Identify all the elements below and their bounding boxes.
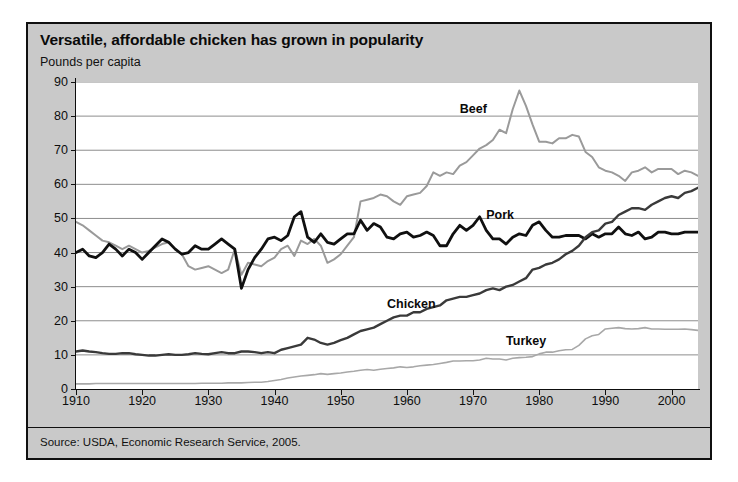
- x-axis-tick-label: 1970: [459, 394, 487, 408]
- series-label-pork: Pork: [486, 208, 514, 222]
- x-axis-tick-label: 2000: [658, 394, 686, 408]
- y-axis-tick: [71, 321, 76, 322]
- y-axis-tick: [71, 253, 76, 254]
- y-axis-tick-label: 10: [54, 348, 68, 362]
- x-axis-tick: [76, 389, 77, 395]
- series-line-turkey: [76, 328, 698, 384]
- y-axis-tick-label: 90: [54, 75, 68, 89]
- y-axis-tick-label: 50: [54, 211, 68, 225]
- x-axis-tick-label: 1920: [128, 394, 156, 408]
- source-bar: Source: USDA, Economic Research Service,…: [28, 427, 710, 458]
- y-axis-tick-label: 60: [54, 177, 68, 191]
- x-axis-tick-label: 1960: [393, 394, 421, 408]
- x-axis-tick: [407, 389, 408, 395]
- y-axis-tick: [71, 287, 76, 288]
- x-axis-tick: [605, 389, 606, 395]
- y-axis-tick: [71, 184, 76, 185]
- y-axis-tick-label: 40: [54, 246, 68, 260]
- y-axis-line: [75, 78, 76, 389]
- y-axis-tick: [71, 82, 76, 83]
- y-axis-tick: [71, 218, 76, 219]
- y-axis-tick-label: 80: [54, 109, 68, 123]
- y-axis-tick-label: 70: [54, 143, 68, 157]
- x-axis-tick: [208, 389, 209, 395]
- plot-area: 0102030405060708090191019201930194019501…: [76, 82, 698, 389]
- series-label-turkey: Turkey: [506, 334, 546, 348]
- x-axis-tick: [672, 389, 673, 395]
- plot-canvas: [76, 82, 698, 389]
- x-axis-tick-label: 1950: [327, 394, 355, 408]
- chart-svg: [76, 82, 698, 389]
- source-note: Source: USDA, Economic Research Service,…: [40, 436, 301, 448]
- x-axis-tick-label: 1910: [62, 394, 90, 408]
- x-axis-tick: [275, 389, 276, 395]
- x-axis-tick: [142, 389, 143, 395]
- series-label-beef: Beef: [460, 102, 487, 116]
- chart-subtitle: Pounds per capita: [40, 55, 141, 69]
- y-axis-tick-label: 20: [54, 314, 68, 328]
- chart-figure: Versatile, affordable chicken has grown …: [26, 22, 712, 460]
- x-axis-tick: [341, 389, 342, 395]
- y-axis-tick-label: 30: [54, 280, 68, 294]
- y-axis-tick: [71, 116, 76, 117]
- x-axis-tick: [539, 389, 540, 395]
- x-axis-tick-label: 1980: [525, 394, 553, 408]
- series-label-chicken: Chicken: [387, 297, 436, 311]
- x-axis-tick: [473, 389, 474, 395]
- y-axis-tick: [71, 150, 76, 151]
- x-axis-tick-label: 1990: [591, 394, 619, 408]
- x-axis-tick-label: 1940: [261, 394, 289, 408]
- series-line-beef: [76, 91, 698, 275]
- chart-title: Versatile, affordable chicken has grown …: [40, 31, 423, 49]
- y-axis-tick: [71, 355, 76, 356]
- x-axis-tick-label: 1930: [194, 394, 222, 408]
